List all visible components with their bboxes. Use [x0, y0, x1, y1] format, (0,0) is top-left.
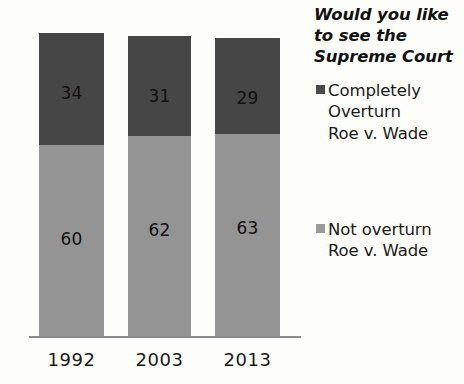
bar-group-2013[interactable]: 29 63: [215, 38, 280, 336]
bar-value-not-overturn-1992: 60: [39, 229, 104, 249]
x-axis-tick-1992: 1992: [34, 349, 109, 370]
legend-panel: Would you like to see the Supreme Court …: [310, 0, 464, 384]
plot-area: 34 60 31 62 29 63 1992: [0, 0, 310, 384]
legend-swatch-gray-square-icon: [316, 224, 325, 233]
bar-value-overturn-2003: 31: [128, 86, 191, 106]
bar-segment-not-overturn-2003[interactable]: 62: [128, 136, 191, 336]
bar-segment-not-overturn-1992[interactable]: 60: [39, 145, 104, 336]
legend-item-completely-overturn[interactable]: Completely Overturn Roe v. Wade: [316, 80, 464, 144]
legend-swatch-dark-square-icon: [316, 85, 325, 94]
bar-group-1992[interactable]: 34 60: [39, 33, 104, 336]
legend-label-not-overturn: Not overturn Roe v. Wade: [328, 219, 432, 262]
stacked-bar-chart: 34 60 31 62 29 63 1992: [0, 0, 464, 384]
bar-value-overturn-1992: 34: [39, 83, 104, 103]
bar-segment-overturn-1992[interactable]: 34: [39, 33, 104, 145]
x-axis-tick-2013: 2013: [210, 349, 285, 370]
bar-value-not-overturn-2013: 63: [215, 218, 280, 238]
bar-value-not-overturn-2003: 62: [128, 220, 191, 240]
x-axis-line: [29, 336, 301, 338]
x-axis-tick-2003: 2003: [122, 349, 197, 370]
legend-item-not-overturn[interactable]: Not overturn Roe v. Wade: [316, 219, 464, 262]
chart-title: Would you like to see the Supreme Court: [314, 4, 464, 67]
bar-segment-overturn-2003[interactable]: 31: [128, 36, 191, 136]
legend-label-completely-overturn: Completely Overturn Roe v. Wade: [328, 80, 428, 144]
bar-segment-overturn-2013[interactable]: 29: [215, 38, 280, 134]
bar-group-2003[interactable]: 31 62: [128, 36, 191, 336]
bar-value-overturn-2013: 29: [215, 88, 280, 108]
bar-segment-not-overturn-2013[interactable]: 63: [215, 134, 280, 336]
